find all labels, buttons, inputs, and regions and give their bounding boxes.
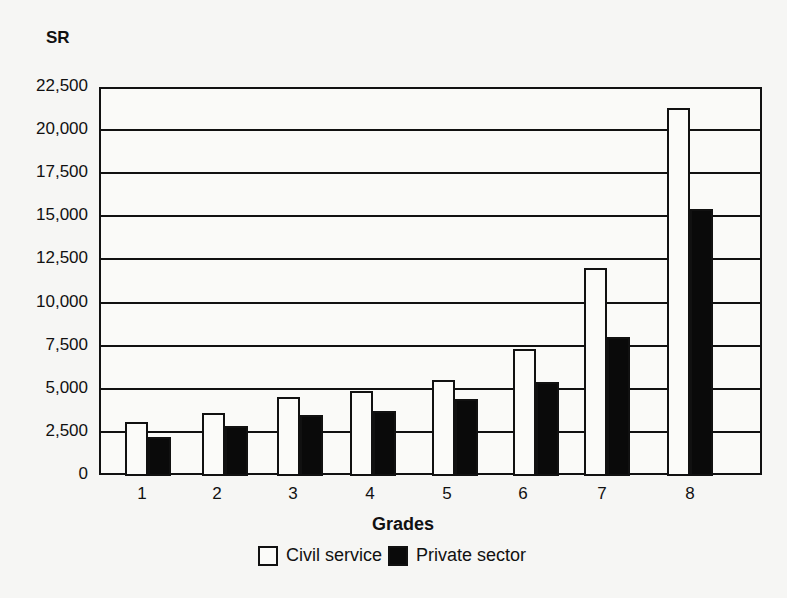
bar-civil-service [667,108,690,476]
legend-label-civil-service: Civil service [286,545,382,566]
y-tick-label: 5,000 [0,379,88,397]
bar-civil-service [202,413,225,476]
bar-civil-service [350,391,373,476]
bar-private-sector [607,337,630,476]
gridline [99,172,762,174]
gridline [99,258,762,260]
y-axis-unit-label: SR [46,28,70,48]
bar-private-sector [300,415,323,476]
y-tick-label: 2,500 [0,422,88,440]
gridline [99,215,762,217]
bar-civil-service [277,397,300,476]
bar-private-sector [373,411,396,476]
x-tick-label: 5 [432,484,462,504]
bar-private-sector [455,399,478,476]
bar-private-sector [536,382,559,476]
bar-civil-service [432,380,455,476]
x-tick-label: 2 [202,484,232,504]
private-sector-swatch-icon [388,546,408,566]
gridline [99,302,762,304]
bar-private-sector [690,209,713,476]
gridline [99,431,762,433]
bar-private-sector [225,426,248,476]
y-tick-label: 7,500 [0,336,88,354]
x-tick-label: 8 [675,484,705,504]
gridline [99,388,762,390]
legend-item-civil-service: Civil service [258,545,382,566]
y-tick-label: 10,000 [0,293,88,311]
x-tick-label: 7 [587,484,617,504]
y-tick-label: 0 [0,465,88,483]
y-tick-label: 15,000 [0,206,88,224]
y-tick-label: 22,500 [0,77,88,95]
x-tick-label: 4 [355,484,385,504]
bar-civil-service [125,422,148,476]
bar-private-sector [148,437,171,476]
x-axis-title: Grades [0,514,787,535]
legend-label-private-sector: Private sector [416,545,526,566]
bar-civil-service [584,268,607,476]
bar-chart: SR 02,5005,0007,50010,00012,50015,00017,… [0,0,787,598]
gridline [99,345,762,347]
y-tick-label: 17,500 [0,163,88,181]
x-tick-label: 3 [278,484,308,504]
bar-civil-service [513,349,536,476]
gridline [99,129,762,131]
x-tick-label: 6 [508,484,538,504]
y-tick-label: 20,000 [0,120,88,138]
x-tick-label: 1 [127,484,157,504]
legend-item-private-sector: Private sector [388,545,526,566]
plot-area [99,87,762,475]
civil-service-swatch-icon [258,546,278,566]
y-tick-label: 12,500 [0,249,88,267]
legend: Civil service Private sector [258,545,532,566]
